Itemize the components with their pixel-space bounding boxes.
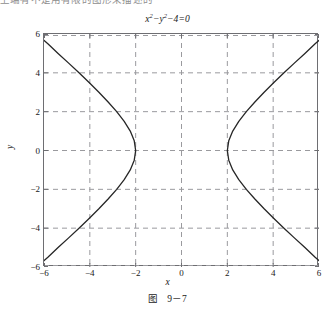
clipped-page-text: 上端有不是用有限的图形来描述的	[0, 0, 335, 11]
hyperbola-curve	[44, 34, 319, 267]
figure-title-text: x2−y2−4=0	[145, 14, 190, 24]
x-axis-label: x	[0, 277, 335, 287]
y-tick-label: 2	[36, 107, 41, 117]
plot-frame: −6−4−20246 −6−4−20246	[43, 33, 318, 266]
y-tick-label: −4	[30, 223, 40, 233]
y-tick-label: 0	[36, 146, 41, 156]
figure-title: x2−y2−4=0	[0, 12, 335, 24]
figure-caption-number: 9－7	[167, 294, 187, 304]
y-axis-label: y	[5, 145, 15, 149]
curve-right-branch	[227, 34, 319, 267]
y-tick-label: 4	[36, 68, 41, 78]
y-tick-label: 6	[36, 29, 41, 39]
figure-caption-label: 图	[148, 293, 158, 304]
curve-left-branch	[44, 34, 136, 267]
figure-caption: 图9－7	[0, 291, 335, 305]
y-tick-label: −2	[30, 184, 40, 194]
clipped-page-text-line: 上端有不是用有限的图形来描述的	[0, 0, 335, 5]
